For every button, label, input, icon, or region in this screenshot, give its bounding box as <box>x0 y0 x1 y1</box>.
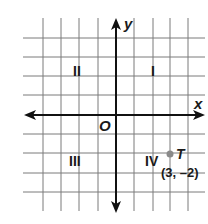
coordinate-plane <box>0 0 208 224</box>
point-t-label: T <box>176 147 185 161</box>
quadrant-ii-label: II <box>73 64 81 78</box>
y-axis-label: y <box>124 16 132 31</box>
origin-label: O <box>99 118 111 133</box>
point-t-marker <box>167 151 174 158</box>
x-axis-label: x <box>194 96 202 111</box>
quadrant-iii-label: III <box>69 154 81 168</box>
point-t-coordinates: (3, –2) <box>161 166 199 179</box>
x-axis <box>24 110 205 120</box>
quadrant-i-label: I <box>151 64 155 78</box>
quadrant-iv-label: IV <box>145 154 158 168</box>
